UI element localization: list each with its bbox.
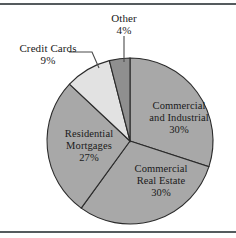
slice-label-other-name: Other — [92, 12, 156, 24]
slice-label-commercial-real-estate: Commercial Real Estate 30% — [120, 163, 202, 198]
slice-label-residential-mortgages-line1: Residential — [51, 128, 127, 140]
pie-chart-figure: Other 4% Credit Cards 9% Commercial and … — [0, 0, 236, 238]
slice-label-commercial-industrial-line1: Commercial — [138, 100, 220, 112]
slice-label-commercial-industrial-value: 30% — [138, 124, 220, 136]
slice-label-credit-cards-value: 9% — [4, 54, 92, 66]
slice-label-commercial-real-estate-line1: Commercial — [120, 163, 202, 175]
slice-label-other: Other 4% — [92, 12, 156, 37]
slice-label-credit-cards-name: Credit Cards — [4, 42, 92, 54]
slice-label-other-value: 4% — [92, 24, 156, 36]
slice-label-commercial-real-estate-value: 30% — [120, 187, 202, 199]
slice-label-residential-mortgages-line2: Mortgages — [51, 140, 127, 152]
slice-label-credit-cards: Credit Cards 9% — [4, 42, 92, 67]
slice-label-residential-mortgages: Residential Mortgages 27% — [51, 128, 127, 163]
slice-label-commercial-industrial-line2: and Industrial — [138, 112, 220, 124]
slice-label-residential-mortgages-value: 27% — [51, 152, 127, 164]
slice-label-commercial-industrial: Commercial and Industrial 30% — [138, 100, 220, 135]
slice-label-commercial-real-estate-line2: Real Estate — [120, 175, 202, 187]
